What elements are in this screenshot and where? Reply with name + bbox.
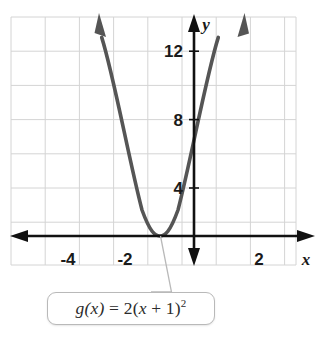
callout-leader-line <box>151 236 172 292</box>
x-axis-arrow-left <box>10 230 28 242</box>
callout-function-name: g(x) <box>75 298 104 318</box>
y-tick-label-4: 4 <box>174 179 184 198</box>
y-tick-label-8: 8 <box>174 111 183 130</box>
curve-path <box>102 37 219 236</box>
equation-callout-text: g(x) = 2(x + 1)2 <box>75 298 186 319</box>
callout-equals: = <box>109 298 119 318</box>
callout-exponent: 2 <box>181 297 187 309</box>
x-tick-label-2: 2 <box>254 250 263 269</box>
callout-coefficient: 2 <box>124 298 133 318</box>
y-axis-name-label: y <box>200 15 210 34</box>
x-axis-tick-labels: -4 -2 2 <box>60 250 263 269</box>
x-axis-arrow-right <box>297 230 315 242</box>
y-tick-label-12: 12 <box>164 42 183 61</box>
equation-callout-box: g(x) = 2(x + 1)2 <box>47 292 215 325</box>
axes <box>10 14 315 266</box>
grid-lines <box>11 17 296 265</box>
x-tick-label-minus-2: -2 <box>117 250 132 269</box>
x-axis-name-label: x <box>301 250 311 269</box>
callout-constant: 1 <box>166 298 175 318</box>
callout-variable: x <box>139 298 147 318</box>
x-tick-label-minus-4: -4 <box>60 250 76 269</box>
graph-figure: 12 8 4 -4 -2 2 y x <box>0 0 319 338</box>
callout-plus: + <box>151 298 161 318</box>
y-axis-arrow-down <box>188 248 200 266</box>
